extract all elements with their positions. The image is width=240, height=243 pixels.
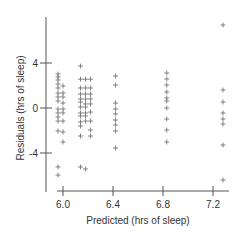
data-point-plus-marker [61,101,66,106]
data-point-plus-marker [56,128,61,133]
data-point-plus-marker [78,77,83,82]
data-point-plus-marker [113,83,118,88]
data-point-plus-marker [61,139,66,144]
data-point-plus-marker [113,101,118,106]
data-point-plus-marker [83,104,88,109]
data-point-plus-marker [83,166,88,171]
data-points [56,22,226,182]
data-point-plus-marker [88,110,93,115]
data-point-plus-marker [61,119,66,124]
data-point-plus-marker [56,119,61,124]
data-point-plus-marker [78,164,83,169]
data-point-plus-marker [56,99,61,104]
data-point-plus-marker [164,139,169,144]
data-point-plus-marker [88,128,93,133]
x-ticks: 6.06.46.87.2 [56,186,220,210]
data-point-plus-marker [56,173,61,178]
data-point-plus-marker [88,97,93,102]
x-tick-label: 6.4 [106,199,120,210]
data-point-plus-marker [221,121,226,126]
data-point-plus-marker [164,99,169,104]
data-point-plus-marker [88,134,93,139]
data-point-plus-marker [113,122,118,127]
data-point-plus-marker [88,119,93,124]
data-point-plus-marker [164,83,169,88]
data-point-plus-marker [113,111,118,116]
x-tick-label: 6.8 [156,199,170,210]
data-point-plus-marker [83,97,88,102]
data-point-plus-marker [78,134,83,139]
data-point-plus-marker [78,124,83,129]
data-point-plus-marker [221,178,226,183]
data-point-plus-marker [83,119,88,124]
data-point-plus-marker [113,118,118,123]
data-point-plus-marker [221,100,226,105]
data-point-plus-marker [78,100,83,105]
data-point-plus-marker [78,113,83,118]
data-point-plus-marker [61,129,66,134]
y-ticks: 40-4 [29,58,52,159]
data-point-plus-marker [83,77,88,82]
data-point-plus-marker [221,143,226,148]
data-point-plus-marker [88,85,93,90]
data-point-plus-marker [56,85,61,90]
y-tick-label: 4 [32,58,38,69]
x-tick-label: 7.2 [206,199,220,210]
data-point-plus-marker [61,83,66,88]
data-point-plus-marker [88,92,93,97]
x-axis-label: Predicted (hrs of sleep) [86,215,189,226]
data-point-plus-marker [88,101,93,106]
data-point-plus-marker [78,104,83,109]
data-point-plus-marker [221,88,226,93]
data-point-plus-marker [78,64,83,69]
residual-scatter-plot: 40-4 6.06.46.87.2 Residuals (hrs of slee… [0,0,240,243]
data-point-plus-marker [221,22,226,27]
data-point-plus-marker [113,107,118,112]
data-point-plus-marker [56,164,61,169]
data-point-plus-marker [113,128,118,133]
data-point-plus-marker [88,77,93,82]
data-point-plus-marker [83,92,88,97]
data-point-plus-marker [78,85,83,90]
data-point-plus-marker [164,128,169,133]
data-point-plus-marker [83,113,88,118]
data-point-plus-marker [221,117,226,122]
data-point-plus-marker [113,74,118,79]
data-point-plus-marker [164,90,169,95]
data-point-plus-marker [113,146,118,151]
data-point-plus-marker [164,76,169,81]
y-axis-label: Residuals (hrs of sleep) [15,55,26,160]
data-point-plus-marker [78,92,83,97]
data-point-plus-marker [164,106,169,111]
x-tick-label: 6.0 [56,199,70,210]
y-tick-label: 0 [32,103,38,114]
y-tick-label: -4 [29,148,38,159]
data-point-plus-marker [164,71,169,76]
data-point-plus-marker [61,110,66,115]
data-point-plus-marker [164,117,169,122]
data-point-plus-marker [221,110,226,115]
data-point-plus-marker [61,94,66,99]
data-point-plus-marker [83,85,88,90]
